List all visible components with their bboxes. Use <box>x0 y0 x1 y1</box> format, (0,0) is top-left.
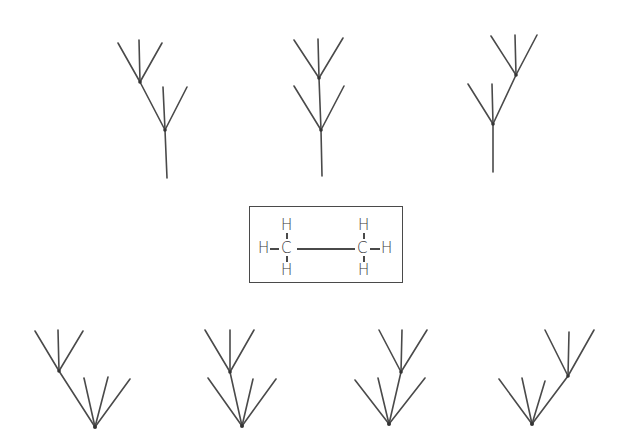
atom-h-right-top: H <box>358 218 369 233</box>
bond-carbon-carbon <box>297 248 355 250</box>
atom-h-left-side: H <box>258 241 269 256</box>
tree-bottom-1 <box>35 330 130 429</box>
atom-h-left-bottom: H <box>281 263 292 278</box>
tree-bottom-4 <box>499 330 594 426</box>
tree-top-2 <box>294 38 344 176</box>
bond-left-side <box>270 248 279 250</box>
atom-h-left-top: H <box>281 218 292 233</box>
bond-right-side <box>370 248 380 250</box>
atom-h-right-side: H <box>381 241 392 256</box>
tree-bottom-2 <box>205 330 276 428</box>
atom-h-right-bottom: H <box>358 263 369 278</box>
atom-c-right: C <box>357 241 367 256</box>
ethane-structure-box <box>249 206 403 283</box>
tree-top-1 <box>118 40 187 178</box>
tree-bottom-3 <box>355 330 427 426</box>
atom-c-left: C <box>281 241 291 256</box>
tree-top-3 <box>468 35 537 172</box>
